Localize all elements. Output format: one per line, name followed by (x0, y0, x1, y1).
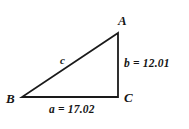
triangle-outline (22, 33, 118, 97)
vertex-label-b: B (6, 92, 15, 105)
vertex-label-a: A (118, 14, 127, 27)
side-label-c: c (60, 55, 65, 66)
triangle-figure: A B C c b = 12.01 a = 17.02 (0, 0, 189, 129)
vertex-label-c: C (124, 91, 133, 104)
side-label-b: b = 12.01 (124, 58, 170, 70)
side-label-a: a = 17.02 (49, 104, 95, 116)
